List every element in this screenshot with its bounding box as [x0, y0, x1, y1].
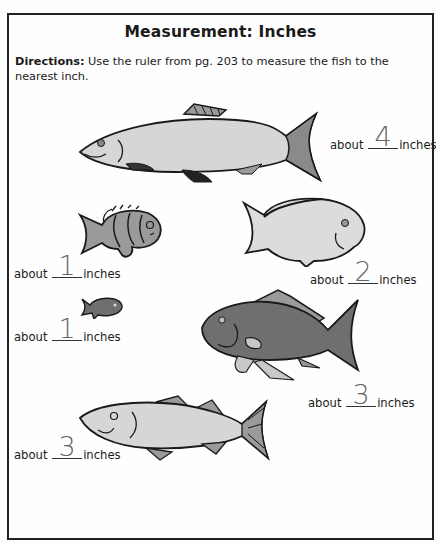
- tiny-dark-fish-image: [80, 295, 126, 319]
- dark-big-fish-image: [198, 288, 368, 384]
- inches-label: inches: [83, 330, 120, 344]
- worksheet-title: Measurement: Inches: [9, 23, 432, 41]
- about-label: about: [308, 396, 341, 410]
- about-label: about: [330, 138, 363, 152]
- answer-value: 3: [346, 381, 376, 408]
- about-label: about: [14, 267, 47, 281]
- answer-blank[interactable]: 3: [52, 446, 82, 459]
- answer-blank[interactable]: 1: [52, 265, 82, 278]
- large-silver-fish-image: [76, 100, 324, 186]
- striped-fish-image: [78, 203, 164, 259]
- answer-row-striped-fish: about 1inches: [14, 265, 121, 281]
- answer-value: 4: [368, 123, 398, 150]
- answer-blank[interactable]: 3: [346, 394, 376, 407]
- answer-blank[interactable]: 4: [368, 136, 398, 149]
- answer-row-tiny-dark-fish: about 1inches: [14, 328, 121, 344]
- answer-row-dark-big-fish: about 3inches: [308, 394, 415, 410]
- answer-row-pale-round-fish: about 2inches: [310, 271, 417, 287]
- about-label: about: [14, 448, 47, 462]
- answer-value: 3: [52, 433, 82, 460]
- answer-blank[interactable]: 2: [348, 271, 378, 284]
- inches-label: inches: [379, 273, 416, 287]
- answer-row-long-light-fish: about 3inches: [14, 446, 121, 462]
- answer-value: 1: [52, 315, 82, 342]
- inches-label: inches: [377, 396, 414, 410]
- pale-round-fish-image: [240, 195, 370, 267]
- about-label: about: [310, 273, 343, 287]
- answer-value: 2: [348, 258, 378, 285]
- about-label: about: [14, 330, 47, 344]
- inches-label: inches: [83, 267, 120, 281]
- directions: Directions: Use the ruler from pg. 203 t…: [15, 54, 415, 84]
- answer-blank[interactable]: 1: [52, 328, 82, 341]
- answer-row-large-silver-fish: about 4inches: [330, 136, 437, 152]
- inches-label: inches: [399, 138, 436, 152]
- inches-label: inches: [83, 448, 120, 462]
- answer-value: 1: [52, 252, 82, 279]
- directions-label: Directions:: [15, 55, 85, 68]
